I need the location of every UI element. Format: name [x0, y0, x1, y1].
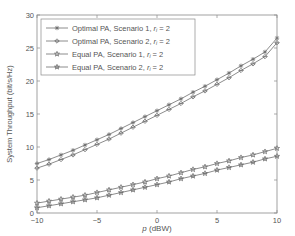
legend-label: Optimal PA, Scenario 2, ri = 2	[72, 37, 170, 47]
line-chart: −10−50510051015202530 Optimal PA, Scenar…	[0, 0, 295, 236]
x-tick-label: 10	[273, 216, 281, 225]
legend: Optimal PA, Scenario 1, ri = 2Optimal PA…	[41, 19, 195, 75]
y-tick-label: 30	[26, 11, 34, 20]
y-tick-label: 5	[30, 176, 34, 185]
y-tick-label: 10	[26, 143, 34, 152]
x-axis-label: p (dBW)	[141, 224, 172, 233]
legend-label: Equal PA, Scenario 1, ri = 2	[72, 50, 163, 60]
y-axis-label: System Throughput (bit/s/Hz)	[5, 65, 14, 163]
y-tick-label: 20	[26, 77, 34, 86]
legend-label: Equal PA, Scenario 2, ri = 2	[72, 63, 163, 73]
y-tick-label: 25	[26, 44, 34, 53]
x-tick-label: 5	[215, 216, 219, 225]
legend-label: Optimal PA, Scenario 1, ri = 2	[72, 24, 170, 34]
y-tick-label: 15	[26, 110, 34, 119]
series-line-4	[34, 154, 279, 210]
y-tick-label: 0	[30, 209, 34, 218]
x-tick-label: −5	[93, 216, 102, 225]
